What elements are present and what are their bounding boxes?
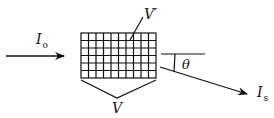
subvolume-label: V′ xyxy=(144,6,158,22)
sample-grid xyxy=(81,33,156,78)
incident-intensity-label: Io xyxy=(35,31,48,50)
scattering-diagram: Io V′ V θ Is xyxy=(0,0,274,118)
scattered-beam: Is xyxy=(160,67,269,103)
incident-beam: Io xyxy=(6,31,64,56)
angle-marker xyxy=(174,54,175,72)
scattering-angle: θ xyxy=(174,54,190,72)
volume-label: V xyxy=(112,100,124,116)
scattered-beam-arrow xyxy=(160,67,247,94)
subvolume-callout: V′ xyxy=(130,6,158,40)
angle-label: θ xyxy=(182,57,190,72)
volume-brace-line xyxy=(81,80,156,98)
scattered-intensity-label: Is xyxy=(256,84,269,103)
volume-brace: V xyxy=(81,80,156,116)
